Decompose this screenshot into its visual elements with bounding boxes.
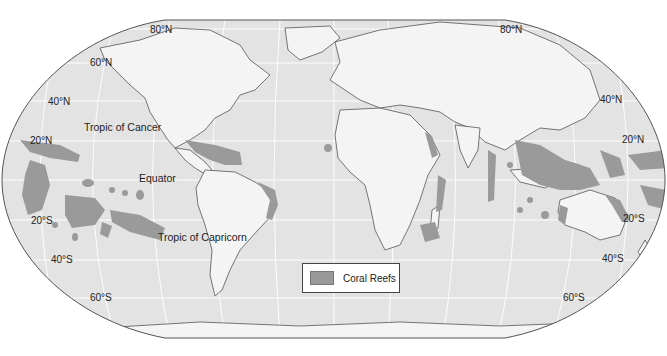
lat-label-60s-right: 60°S	[563, 292, 585, 303]
lat-label-20s-left: 20°S	[31, 215, 53, 226]
legend-label: Coral Reefs	[343, 273, 396, 284]
lat-label-60s-left: 60°S	[90, 292, 112, 303]
lat-label-20s-right: 20°S	[623, 213, 645, 224]
lat-label-80n-right: 80°N	[500, 24, 522, 35]
lat-label-40s-left: 40°S	[51, 254, 73, 265]
lat-label-40n-right: 40°N	[600, 94, 622, 105]
lat-label-40s-right: 40°S	[602, 253, 624, 264]
coral-reef-swatch	[310, 271, 334, 285]
lat-label-20n-left: 20°N	[30, 135, 52, 146]
lat-label-20n-right: 20°N	[622, 134, 644, 145]
tropic-of-capricorn-label: Tropic of Capricorn	[158, 231, 247, 243]
tropic-of-cancer-label: Tropic of Cancer	[84, 121, 161, 133]
map-legend: Coral Reefs	[302, 263, 400, 293]
lat-label-40n-left: 40°N	[48, 96, 70, 107]
lat-label-60n-left: 60°N	[90, 57, 112, 68]
equator-label: Equator	[139, 172, 176, 184]
lat-label-80n-left: 80°N	[150, 24, 172, 35]
